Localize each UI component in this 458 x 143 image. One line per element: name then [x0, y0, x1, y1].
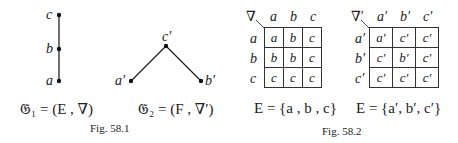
operator-nabla: ∇ — [246, 8, 256, 25]
cell: c′ — [416, 68, 439, 88]
cell: c′ — [393, 28, 416, 48]
set-definition-1: E = {a , b , c} — [254, 100, 337, 117]
cell: c′ — [393, 68, 416, 88]
cell: c′ — [416, 28, 439, 48]
operation-table-1: abc bbc ccc — [264, 27, 322, 88]
cell: b′ — [393, 48, 416, 68]
col-header: b — [290, 9, 297, 25]
node-label-b: b — [46, 42, 53, 56]
col-header: c′ — [423, 9, 432, 25]
set-definition-2: E = {a′, b′, c′} — [356, 100, 441, 117]
cell: c — [303, 68, 322, 88]
row-header: a′ — [355, 31, 365, 47]
cell: b — [265, 48, 284, 68]
cell: c′ — [370, 48, 393, 68]
node-label-c-prime: c′ — [162, 30, 171, 44]
cell: c′ — [370, 68, 393, 88]
node-label-a: a — [46, 74, 53, 88]
row-header: b′ — [355, 51, 365, 67]
cell: a — [265, 28, 284, 48]
col-header: a — [270, 9, 277, 25]
row-header: c′ — [355, 71, 364, 87]
caption-fig-58-1: Fig. 58.1 — [90, 122, 129, 134]
row-header: c — [250, 71, 256, 87]
cell: b — [284, 48, 303, 68]
node-label-a-prime: a′ — [115, 74, 125, 88]
row-header: a — [250, 31, 257, 47]
equation-g2: 𝔊₂ = (F , ∇′) — [138, 100, 214, 118]
row-header: b — [250, 51, 257, 67]
caption-fig-58-2: Fig. 58.2 — [322, 125, 361, 137]
cell: c — [284, 68, 303, 88]
equation-g1: 𝔊₁ = (E , ∇) — [20, 100, 93, 118]
operation-table-2: a′c′c′ c′b′c′ c′c′c′ — [369, 27, 439, 88]
col-header: c — [310, 9, 316, 25]
col-header: b′ — [400, 9, 410, 25]
node-label-c: c — [46, 8, 52, 22]
cell: b — [284, 28, 303, 48]
col-header: a′ — [377, 9, 387, 25]
cell: c — [303, 48, 322, 68]
operator-nabla-prime: ∇′ — [351, 8, 364, 25]
node-label-b-prime: b′ — [205, 74, 215, 88]
cell: c — [265, 68, 284, 88]
cell: c — [303, 28, 322, 48]
cell: c′ — [416, 48, 439, 68]
cell: a′ — [370, 28, 393, 48]
